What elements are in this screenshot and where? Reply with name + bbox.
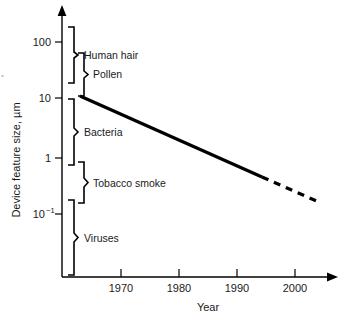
y-axis-arrowhead: [58, 5, 67, 16]
y-tick-labels: 100 10 1 10 −1: [33, 36, 55, 220]
edge-artifact: •: [1, 71, 4, 80]
bracket-human-hair-shape: [68, 27, 78, 83]
x-tick-label-1980: 1980: [167, 282, 191, 294]
bracket-viruses: Viruses: [68, 200, 119, 275]
y-tick-marks: [55, 42, 62, 214]
bracket-label-bacteria: Bacteria: [84, 126, 123, 138]
x-tick-labels: 1970 1980 1990 2000: [109, 282, 307, 294]
y-tick-label-10: 10: [39, 92, 51, 104]
x-tick-label-1990: 1990: [225, 282, 249, 294]
bracket-bacteria-shape: [68, 99, 78, 165]
y-axis-title: Device feature size, µm: [10, 102, 22, 217]
x-axis-title: Year: [197, 301, 220, 313]
y-axis: [58, 5, 67, 277]
bracket-label-pollen: Pollen: [93, 68, 122, 80]
bracket-bacteria: Bacteria: [68, 99, 123, 165]
trend-line-dashed: [262, 177, 321, 203]
x-axis: [62, 273, 338, 282]
bracket-label-viruses: Viruses: [84, 232, 119, 244]
bracket-viruses-shape: [68, 200, 78, 275]
bracket-label-human-hair: Human hair: [84, 49, 139, 61]
x-tick-marks: [121, 269, 295, 277]
x-tick-label-1970: 1970: [109, 282, 133, 294]
x-axis-arrowhead: [327, 273, 338, 282]
chart-canvas: • 100 10 1 10 −1: [0, 0, 349, 324]
chart-figure: • 100 10 1 10 −1: [0, 0, 349, 324]
bracket-tobacco-smoke-shape: [78, 162, 88, 203]
y-tick-label-1: 1: [45, 152, 51, 164]
bracket-tobacco-smoke: Tobacco smoke: [78, 162, 166, 203]
bracket-label-tobacco-smoke: Tobacco smoke: [93, 177, 166, 189]
x-tick-label-2000: 2000: [283, 282, 307, 294]
y-tick-label-0.1-exponent: −1: [46, 206, 55, 215]
y-tick-label-100: 100: [33, 36, 51, 48]
y-tick-label-0.1: 10: [33, 208, 45, 220]
